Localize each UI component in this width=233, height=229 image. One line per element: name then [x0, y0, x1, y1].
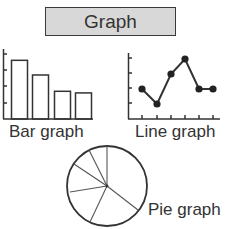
bar-graph: [3, 49, 93, 119]
pie-center: [106, 185, 109, 188]
bar-graph-label: Bar graph: [9, 122, 84, 142]
line-marker: [138, 85, 145, 92]
pie-graph-label: Pie graph: [148, 200, 221, 220]
bar: [76, 93, 92, 119]
bar: [12, 60, 28, 119]
line-series: [142, 59, 213, 104]
line-marker: [209, 85, 216, 92]
line-graph: [128, 53, 220, 119]
graph-illustrations: [0, 0, 233, 229]
line-markers: [138, 55, 216, 107]
bar: [55, 91, 71, 119]
line-graph-label: Line graph: [135, 122, 215, 142]
line-marker: [167, 70, 174, 77]
line-marker: [181, 55, 188, 62]
pie-graph: [67, 146, 147, 226]
bar: [33, 75, 49, 119]
line-marker: [153, 100, 160, 107]
line-marker: [195, 85, 202, 92]
bars: [12, 60, 92, 119]
